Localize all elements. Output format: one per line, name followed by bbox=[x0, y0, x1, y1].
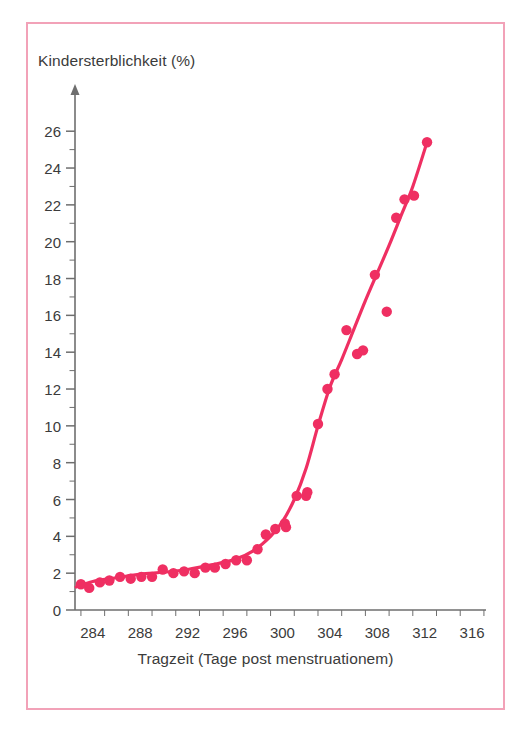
fit-curve bbox=[76, 142, 427, 587]
data-points bbox=[76, 137, 433, 593]
x-tick-label: 284 bbox=[68, 624, 118, 641]
y-tick-label: 8 bbox=[28, 454, 61, 471]
y-tick-label: 2 bbox=[28, 565, 61, 582]
y-tick-label: 4 bbox=[28, 528, 61, 545]
axes-group bbox=[66, 84, 486, 616]
y-tick-label: 20 bbox=[28, 233, 61, 250]
y-tick-label: 22 bbox=[28, 196, 61, 213]
x-tick-label: 316 bbox=[447, 624, 497, 641]
y-axis-label: Kindersterblichkeit (%) bbox=[38, 52, 195, 70]
x-axis-label: Tragzeit (Tage post menstruationem) bbox=[28, 650, 503, 668]
y-tick-label: 26 bbox=[28, 123, 61, 140]
x-tick-label: 292 bbox=[163, 624, 213, 641]
y-tick-label: 24 bbox=[28, 160, 61, 177]
x-tick-label: 300 bbox=[257, 624, 307, 641]
chart-figure: Kindersterblichkeit (%) Tragzeit (Tage p… bbox=[26, 22, 505, 710]
plot-surface: Kindersterblichkeit (%) Tragzeit (Tage p… bbox=[28, 24, 503, 708]
x-tick-label: 288 bbox=[115, 624, 165, 641]
x-tick-label: 304 bbox=[305, 624, 355, 641]
y-tick-label: 0 bbox=[28, 602, 61, 619]
y-tick-label: 14 bbox=[28, 344, 61, 361]
y-tick-label: 6 bbox=[28, 491, 61, 508]
x-tick-label: 312 bbox=[400, 624, 450, 641]
y-tick-label: 18 bbox=[28, 270, 61, 287]
y-tick-label: 10 bbox=[28, 417, 61, 434]
y-tick-label: 16 bbox=[28, 307, 61, 324]
x-tick-label: 296 bbox=[210, 624, 260, 641]
x-tick-label: 308 bbox=[352, 624, 402, 641]
y-tick-label: 12 bbox=[28, 381, 61, 398]
chart-canvas bbox=[28, 24, 503, 708]
